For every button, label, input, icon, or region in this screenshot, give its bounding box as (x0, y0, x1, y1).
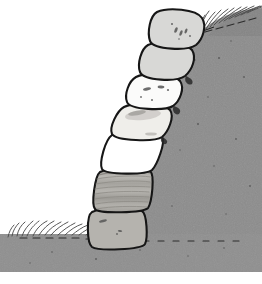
stone-wall-illustration (0, 0, 262, 284)
illustration-canvas (0, 0, 262, 284)
stone-7-base (88, 208, 147, 249)
stone-6-striated (93, 168, 152, 212)
stone-1-top (149, 9, 204, 48)
